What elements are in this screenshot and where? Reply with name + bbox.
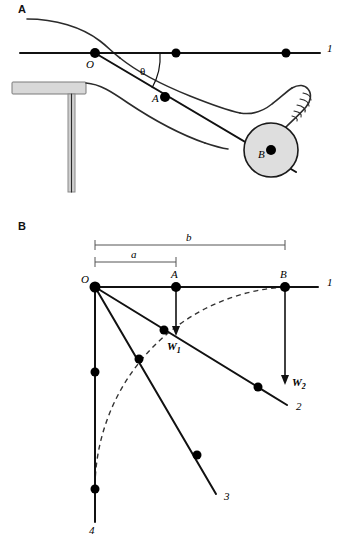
- panel-b-point-a: [171, 282, 181, 292]
- calf-bottom-contour: [205, 143, 228, 149]
- panel-a-point-o-label: O: [86, 58, 94, 70]
- panel-a-axis-dot-mid: [172, 49, 181, 58]
- panel-a-point-b: [266, 145, 276, 155]
- dimension-b-label: b: [186, 231, 192, 243]
- panel-b-point-o: [90, 282, 101, 293]
- dimension-a-label: a: [131, 248, 137, 260]
- theta-label: θ: [140, 65, 145, 77]
- force-w2-group: W2: [281, 287, 306, 391]
- panel-b-ray4-dot-inner: [91, 368, 100, 377]
- panel-b-ray3-dot-inner: [135, 355, 144, 364]
- force-w2-subscript: 2: [301, 382, 306, 391]
- panel-b-ray-3: [95, 287, 216, 494]
- panel-a-point-o: [90, 48, 100, 58]
- panel-b-group: B b a 1 2 3 4 W1: [18, 220, 333, 536]
- panel-b-point-b-label: B: [280, 268, 287, 280]
- panel-a-point-a-label: A: [151, 92, 159, 104]
- panel-b-point-b: [280, 282, 290, 292]
- panel-b-label: B: [18, 220, 26, 232]
- foot-contour: [286, 85, 310, 127]
- force-w2-label: W2: [292, 376, 306, 391]
- panel-b-ray4-dot-outer: [91, 485, 100, 494]
- panel-a-group: A θ: [12, 3, 333, 192]
- force-w1-subscript: 1: [177, 346, 181, 355]
- panel-b-ray2-dot-inner: [160, 326, 169, 335]
- dimension-a-group: a: [95, 248, 176, 267]
- panel-a-label: A: [18, 3, 26, 15]
- panel-b-ray-2-label: 2: [296, 400, 302, 412]
- toe-3: [297, 105, 305, 112]
- panel-b-point-a-label: A: [170, 268, 178, 280]
- panel-b-ray-3-label: 3: [223, 490, 230, 502]
- panel-a-axis-dot-right: [282, 49, 291, 58]
- force-w2-arrowhead: [281, 375, 289, 385]
- biomechanics-figure: A θ: [0, 0, 342, 542]
- panel-a-line-1-label: 1: [327, 42, 333, 54]
- force-w1-group: W1: [167, 287, 181, 355]
- panel-b-ray3-dot-outer: [193, 451, 202, 460]
- ankle-top-contour: [240, 88, 292, 114]
- panel-b-ray2-dot-outer: [254, 383, 263, 392]
- thigh-bottom-contour: [86, 83, 205, 143]
- panel-b-ray-4-label: 4: [89, 524, 95, 536]
- thigh-top-contour: [120, 58, 240, 113]
- seat-group: [12, 82, 86, 192]
- force-w1-label: W1: [167, 340, 181, 355]
- panel-b-ray-1-label: 1: [327, 276, 333, 288]
- seat-top: [12, 82, 86, 94]
- panel-b-point-o-label: O: [81, 273, 89, 285]
- panel-a-point-a: [160, 92, 170, 102]
- panel-a-point-b-label: B: [258, 148, 265, 160]
- dimension-b-group: b: [95, 231, 285, 250]
